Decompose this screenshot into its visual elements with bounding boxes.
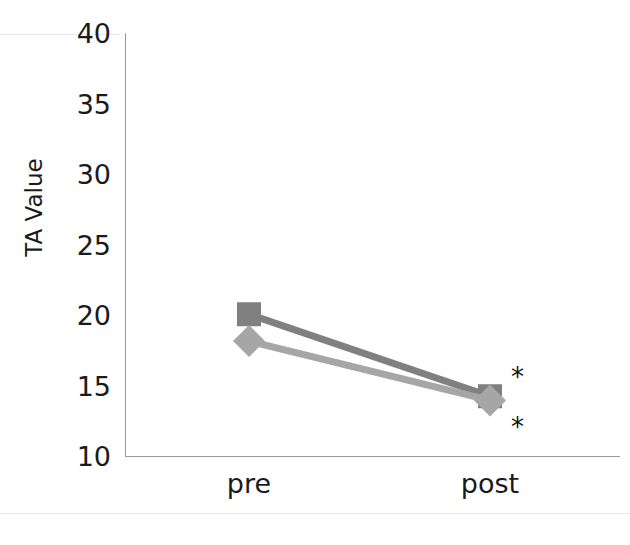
square-marker bbox=[237, 302, 261, 326]
significance-star-upper: * bbox=[511, 364, 524, 390]
x-tick-label-pre: pre bbox=[227, 470, 271, 497]
y-tick-label: 35 bbox=[49, 91, 111, 118]
y-tick-label: 10 bbox=[49, 443, 111, 470]
series-1-line bbox=[249, 314, 490, 396]
y-tick-label: 15 bbox=[49, 373, 111, 400]
y-tick-label: 30 bbox=[49, 161, 111, 188]
y-axis-tick-labels: 40 35 30 25 20 15 10 bbox=[49, 0, 111, 545]
significance-star-lower: * bbox=[511, 414, 524, 440]
series-2-line bbox=[249, 341, 490, 400]
y-axis-title: TA Value bbox=[23, 128, 46, 288]
chart-figure: TA Value 40 35 30 25 20 15 10 pre post *… bbox=[0, 0, 630, 545]
diamond-marker bbox=[233, 325, 265, 357]
data-series-layer bbox=[125, 33, 620, 457]
x-tick-label-post: post bbox=[461, 470, 519, 497]
series-2-group bbox=[233, 325, 506, 416]
y-tick-label: 25 bbox=[49, 232, 111, 259]
plot-area bbox=[125, 33, 620, 457]
y-tick-label: 20 bbox=[49, 302, 111, 329]
y-tick-label: 40 bbox=[49, 20, 111, 47]
